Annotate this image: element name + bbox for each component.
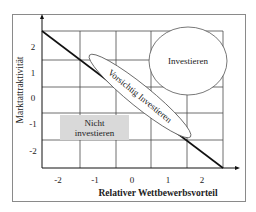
x-tick: 0 (130, 175, 135, 185)
no-invest-label-line1: Nicht (85, 118, 105, 128)
y-tick: 2 (31, 42, 36, 52)
no-invest-label-line2: investieren (75, 128, 115, 138)
x-tick: -1 (91, 175, 99, 185)
x-axis-title: Relativer Wettbewerbsvorteil (98, 188, 218, 198)
y-tick: -2 (29, 146, 37, 156)
y-tick: -1 (29, 119, 37, 129)
portfolio-diagram: Nicht investieren Investieren Vorsichtig… (0, 0, 256, 212)
y-tick: 0 (31, 93, 36, 103)
x-tick: 1 (166, 175, 171, 185)
x-tick: -2 (54, 175, 62, 185)
y-axis-title: Marktattraktivität (15, 56, 25, 123)
invest-region: Investieren (149, 27, 227, 95)
y-tick: 1 (31, 68, 36, 78)
invest-label: Investieren (168, 56, 208, 66)
x-tick: 2 (200, 175, 205, 185)
no-invest-region: Nicht investieren (60, 115, 129, 140)
